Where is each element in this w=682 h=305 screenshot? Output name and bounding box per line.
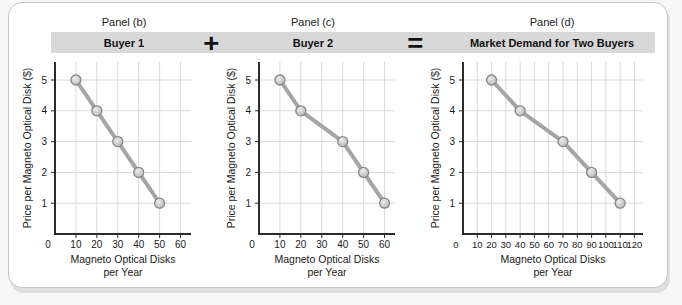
svg-text:4: 4	[449, 105, 455, 116]
svg-text:per Year: per Year	[103, 266, 143, 278]
svg-text:70: 70	[558, 239, 569, 250]
panel-label-b: Panel (b)	[51, 16, 197, 28]
chart-spacer-2	[401, 56, 429, 282]
svg-text:4: 4	[245, 105, 251, 116]
svg-text:Price per Magneto Optical Disk: Price per Magneto Optical Disk ($)	[21, 68, 33, 228]
panel-label-d: Panel (d)	[429, 16, 649, 28]
svg-text:40: 40	[515, 239, 526, 250]
svg-text:Price per Magneto Optical Disk: Price per Magneto Optical Disk ($)	[225, 68, 237, 228]
svg-text:60: 60	[543, 239, 554, 250]
svg-text:80: 80	[572, 239, 583, 250]
chart-market-demand: 010203040506070809010011012012345Price p…	[429, 56, 649, 282]
header-buyer-1: Buyer 1	[51, 37, 197, 49]
svg-text:0: 0	[249, 239, 255, 250]
svg-text:3: 3	[41, 136, 47, 147]
svg-text:3: 3	[245, 136, 251, 147]
svg-text:Magneto Optical Disks: Magneto Optical Disks	[70, 253, 175, 265]
svg-text:50: 50	[358, 239, 370, 250]
svg-text:10: 10	[472, 239, 483, 250]
svg-text:120: 120	[626, 239, 642, 250]
header-bar: Buyer 1 + Buyer 2 = Market Demand for Tw…	[51, 32, 655, 53]
svg-text:50: 50	[154, 239, 166, 250]
svg-text:20: 20	[91, 239, 103, 250]
svg-text:30: 30	[316, 239, 328, 250]
figure-card: Panel (b) Panel (c) Panel (d) Buyer 1 + …	[8, 2, 668, 288]
svg-text:1: 1	[245, 198, 251, 209]
svg-text:20: 20	[295, 239, 307, 250]
svg-text:20: 20	[486, 239, 497, 250]
charts-row: 010203040506012345Price per Magneto Opti…	[21, 56, 655, 282]
svg-text:40: 40	[133, 239, 145, 250]
svg-text:5: 5	[245, 75, 251, 86]
chart-buyer-1: 010203040506012345Price per Magneto Opti…	[21, 56, 197, 282]
svg-text:per Year: per Year	[307, 266, 347, 278]
svg-text:4: 4	[41, 105, 47, 116]
svg-text:50: 50	[529, 239, 540, 250]
panel-labels-row: Panel (b) Panel (c) Panel (d)	[51, 8, 655, 32]
svg-text:0: 0	[45, 239, 51, 250]
svg-text:30: 30	[501, 239, 512, 250]
svg-text:30: 30	[112, 239, 124, 250]
svg-text:Magneto Optical Disks: Magneto Optical Disks	[500, 253, 605, 265]
svg-text:60: 60	[379, 239, 391, 250]
chart-spacer-1	[197, 56, 225, 282]
svg-text:60: 60	[175, 239, 187, 250]
svg-text:40: 40	[337, 239, 349, 250]
panel-label-c: Panel (c)	[225, 16, 401, 28]
svg-text:5: 5	[41, 75, 47, 86]
svg-text:3: 3	[449, 136, 455, 147]
svg-text:1: 1	[449, 198, 455, 209]
svg-text:90: 90	[586, 239, 597, 250]
svg-text:per Year: per Year	[533, 266, 573, 278]
svg-text:10: 10	[70, 239, 82, 250]
svg-text:Magneto Optical Disks: Magneto Optical Disks	[274, 253, 379, 265]
svg-text:0: 0	[453, 239, 458, 250]
header-market-demand: Market Demand for Two Buyers	[429, 37, 649, 49]
svg-text:Price per Magneto Optical Disk: Price per Magneto Optical Disk ($)	[429, 68, 441, 228]
svg-text:2: 2	[449, 167, 455, 178]
header-buyer-2: Buyer 2	[225, 37, 401, 49]
svg-text:5: 5	[449, 75, 455, 86]
svg-text:10: 10	[274, 239, 286, 250]
svg-text:1: 1	[41, 198, 47, 209]
chart-buyer-2: 010203040506012345Price per Magneto Opti…	[225, 56, 401, 282]
svg-text:2: 2	[41, 167, 47, 178]
svg-text:110: 110	[613, 239, 628, 250]
svg-text:2: 2	[245, 167, 251, 178]
svg-text:100: 100	[598, 239, 614, 250]
